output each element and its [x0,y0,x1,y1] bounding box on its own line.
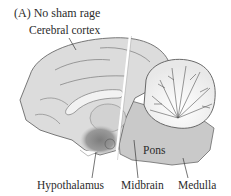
label-medulla: Medulla [178,180,216,192]
panel-title: (A) No sham rage [14,7,100,19]
label-cerebral-cortex: Cerebral cortex [29,25,100,37]
cerebellum-shape [144,59,215,128]
label-hypothalamus: Hypothalamus [37,180,104,192]
hypothalamus-region [80,125,120,155]
label-midbrain: Midbrain [121,180,164,192]
brain-diagram-figure: (A) No sham rage Cerebral cortex Pons Hy… [0,0,231,196]
label-pons: Pons [143,145,165,157]
